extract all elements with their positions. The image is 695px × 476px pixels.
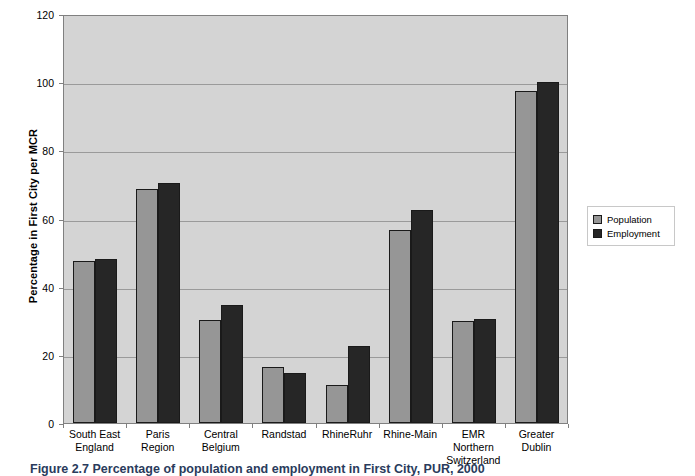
chart-legend: Population Employment	[587, 206, 675, 246]
y-tick-label-20: 20	[14, 350, 54, 362]
x-tick-label-line: Dublin	[505, 441, 568, 454]
x-tick-mark-0	[63, 424, 64, 428]
x-tick-mark-3	[252, 424, 253, 428]
x-tick-label-1: ParisRegion	[126, 428, 189, 454]
legend-swatch-employment-icon	[593, 229, 602, 238]
bar-population-3	[262, 367, 284, 423]
bar-population-7	[515, 91, 537, 423]
legend-label-population: Population	[607, 214, 652, 225]
x-tick-mark-7	[505, 424, 506, 428]
x-tick-label-4: RhineRuhr	[316, 428, 379, 441]
x-tick-label-line: EMR Northern	[442, 428, 505, 454]
bars-layer	[64, 16, 567, 423]
y-tick-label-0: 0	[14, 418, 54, 430]
y-tick-label-40: 40	[14, 282, 54, 294]
x-tick-label-line: Central	[189, 428, 252, 441]
bar-employment-7	[537, 82, 559, 423]
x-tick-label-0: South EastEngland	[63, 428, 126, 454]
bar-population-4	[326, 385, 348, 424]
x-tick-mark-end	[568, 424, 569, 428]
bar-employment-2	[221, 305, 243, 423]
x-tick-label-5: Rhine-Main	[379, 428, 442, 441]
bar-population-0	[73, 261, 95, 423]
bar-population-1	[136, 189, 158, 423]
x-tick-label-line: Region	[126, 441, 189, 454]
legend-swatch-population-icon	[593, 215, 602, 224]
bar-population-2	[199, 320, 221, 423]
x-tick-label-line: Belgium	[189, 441, 252, 454]
x-tick-label-line: Greater	[505, 428, 568, 441]
y-tick-label-80: 80	[14, 145, 54, 157]
bar-employment-3	[284, 373, 306, 423]
x-tick-label-3: Randstad	[252, 428, 315, 441]
x-tick-label-2: CentralBelgium	[189, 428, 252, 454]
legend-label-employment: Employment	[607, 228, 660, 239]
x-tick-label-line: Randstad	[252, 428, 315, 441]
x-tick-mark-5	[379, 424, 380, 428]
x-tick-label-line: England	[63, 441, 126, 454]
bar-population-5	[389, 230, 411, 423]
figure-caption: Figure 2.7 Percentage of population and …	[30, 462, 670, 476]
x-tick-label-7: GreaterDublin	[505, 428, 568, 454]
bar-employment-1	[158, 183, 180, 423]
bar-employment-4	[348, 346, 370, 423]
bar-employment-5	[411, 210, 433, 423]
bar-population-6	[452, 321, 474, 423]
plot-area	[63, 15, 568, 424]
x-tick-mark-1	[126, 424, 127, 428]
legend-item-employment[interactable]: Employment	[593, 226, 670, 240]
x-tick-label-line: Rhine-Main	[379, 428, 442, 441]
x-tick-mark-4	[316, 424, 317, 428]
bar-employment-6	[474, 319, 496, 423]
legend-item-population[interactable]: Population	[593, 212, 670, 226]
x-tick-label-line: South East	[63, 428, 126, 441]
y-axis-ticks: 020406080100120	[0, 15, 63, 424]
x-tick-label-line: Paris	[126, 428, 189, 441]
x-tick-mark-2	[189, 424, 190, 428]
y-tick-label-60: 60	[14, 214, 54, 226]
y-tick-label-100: 100	[14, 77, 54, 89]
x-tick-mark-6	[442, 424, 443, 428]
bar-employment-0	[95, 259, 117, 423]
y-tick-label-120: 120	[14, 9, 54, 21]
x-tick-label-line: RhineRuhr	[316, 428, 379, 441]
